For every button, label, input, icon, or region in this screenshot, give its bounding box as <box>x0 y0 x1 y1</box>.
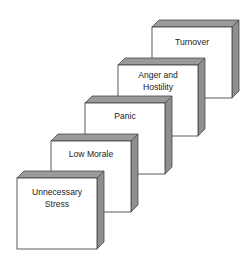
step-label: Anger and Hostility <box>118 69 198 93</box>
step-label: Low Morale <box>51 148 131 160</box>
stress-escalation-diagram: Turnover Anger and Hostility Panic <box>0 0 251 266</box>
step-label: Turnover <box>152 36 232 48</box>
step-label: Panic <box>85 110 165 122</box>
box-3d-shape <box>17 171 105 251</box>
step-label: Unnecessary Stress <box>17 186 97 210</box>
step-unnecessary-stress: Unnecessary Stress <box>17 178 97 249</box>
